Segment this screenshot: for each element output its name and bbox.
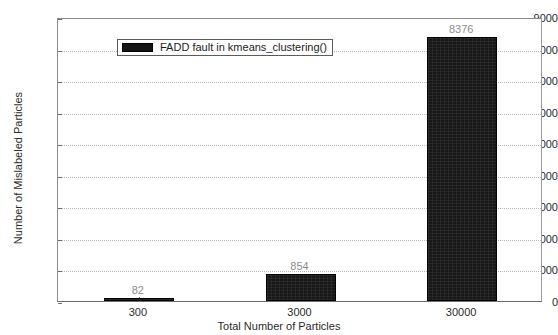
bar-texture: [267, 275, 335, 300]
y-tick-mark: [58, 82, 62, 83]
y-tick-mark: [58, 145, 62, 146]
x-tick-label: 30000: [446, 306, 477, 318]
bar: [266, 274, 336, 301]
legend-label: FADD fault in kmeans_clustering(): [160, 42, 327, 53]
bar-value-label: 8376: [421, 23, 501, 35]
y-tick-mark: [58, 240, 62, 241]
x-tick-label: 300: [129, 306, 147, 318]
y-tick-mark: [58, 271, 62, 272]
bar-texture: [428, 38, 496, 300]
y-tick-mark: [58, 177, 62, 178]
bar-value-label: 854: [260, 260, 340, 272]
bar: [427, 37, 497, 301]
bar: [104, 298, 174, 301]
bar-texture: [105, 299, 173, 300]
y-tick-mark: [58, 303, 62, 304]
y-tick-mark: [58, 114, 62, 115]
y-tick-mark: [58, 51, 62, 52]
y-tick-mark: [58, 19, 62, 20]
bar-value-label: 82: [98, 284, 178, 296]
y-tick-mark: [58, 208, 62, 209]
legend-swatch-icon: [122, 43, 153, 52]
x-tick-label: 3000: [287, 306, 311, 318]
x-axis-title: Total Number of Particles: [0, 320, 558, 332]
bar-chart-figure: Number of Mislabeled Particles 010002000…: [0, 0, 558, 335]
y-axis-title: Number of Mislabeled Particles: [12, 58, 24, 278]
legend[interactable]: FADD fault in kmeans_clustering(): [117, 39, 333, 56]
